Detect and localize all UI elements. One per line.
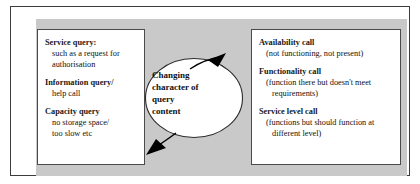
left-group-heading: Service query: — [45, 37, 138, 48]
left-query-types-box: Service query: such as a request for aut… — [37, 29, 145, 165]
right-group-line: (function there but doesn't meet — [259, 77, 394, 88]
ellipse-label-line: character of — [152, 81, 238, 93]
ellipse-label: Changing character of query content — [152, 69, 238, 117]
left-group-capacity-query: Capacity query no storage space/ too slo… — [45, 106, 138, 139]
diagram-figure: Service query: such as a request for aut… — [0, 0, 420, 184]
ellipse-label-line: query — [152, 93, 238, 105]
left-group-line: authorisation — [45, 59, 138, 70]
right-group-line: different level) — [259, 128, 394, 139]
right-group-line: (functions but should function at — [259, 117, 394, 128]
right-group-heading: Service level call — [259, 106, 394, 117]
left-group-heading: Capacity query — [45, 106, 138, 117]
center-ellipse: Changing character of query content — [144, 57, 244, 139]
right-group-heading: Functionality call — [259, 66, 394, 77]
left-group-line: too slow etc — [45, 128, 138, 139]
right-group-functionality-call: Functionality call (function there but d… — [259, 66, 394, 99]
right-group-availability-call: Availability call (not functioning, not … — [259, 37, 394, 59]
ellipse-label-line: content — [152, 105, 238, 117]
left-group-information-query: Information query/ help call — [45, 77, 138, 99]
right-group-heading: Availability call — [259, 37, 394, 48]
left-group-line: no storage space/ — [45, 117, 138, 128]
right-group-line: requirements) — [259, 88, 394, 99]
right-call-types-box: Availability call (not functioning, not … — [251, 29, 401, 165]
outer-frame: Service query: such as a request for aut… — [10, 6, 410, 176]
left-group-service-query: Service query: such as a request for aut… — [45, 37, 138, 70]
left-group-heading: Information query/ — [45, 77, 138, 88]
left-group-line: such as a request for — [45, 48, 138, 59]
right-group-service-level-call: Service level call (functions but should… — [259, 106, 394, 139]
right-group-line: (not functioning, not present) — [259, 48, 394, 59]
left-group-line: help call — [45, 88, 138, 99]
ellipse-label-line: Changing — [152, 69, 238, 81]
